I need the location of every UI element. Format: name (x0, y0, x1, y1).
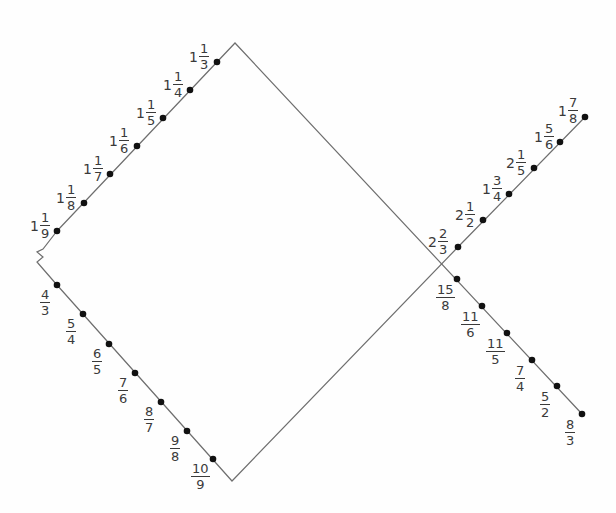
denominator: 2 (541, 405, 549, 419)
dot-point (158, 399, 165, 406)
numerator: 15 (436, 283, 455, 298)
dot-point (132, 370, 139, 377)
dot-label: 215 (506, 148, 526, 177)
whole-number: 1 (30, 219, 39, 233)
fraction: 16 (119, 126, 129, 155)
dot-label: 87 (144, 405, 154, 434)
fraction: 76 (118, 376, 128, 405)
dot-point (184, 428, 191, 435)
numerator: 7 (568, 96, 578, 111)
fraction: 158 (436, 283, 455, 312)
dot-label: 76 (118, 376, 128, 405)
dot-point (54, 282, 61, 289)
dot-label: 156 (534, 122, 554, 151)
dot-label: 65 (92, 347, 102, 376)
numerator: 9 (170, 434, 180, 449)
denominator: 2 (466, 215, 474, 229)
dot-point (529, 357, 536, 364)
fraction: 34 (492, 174, 502, 203)
fish-lower-outline (37, 117, 585, 481)
fish-outline (0, 0, 616, 513)
fraction: 78 (568, 96, 578, 125)
denominator: 6 (120, 141, 128, 155)
numerator: 8 (144, 405, 154, 420)
dot-label: 52 (540, 390, 550, 419)
dot-label: 118 (56, 183, 76, 212)
dot-point (134, 143, 141, 150)
fraction: 12 (465, 200, 475, 229)
numerator: 6 (92, 347, 102, 362)
fraction: 19 (40, 211, 50, 240)
denominator: 9 (41, 226, 49, 240)
denominator: 5 (147, 113, 155, 127)
denominator: 8 (569, 111, 577, 125)
numerator: 5 (66, 317, 76, 332)
dot-point (504, 330, 511, 337)
dot-point (506, 191, 513, 198)
numerator: 5 (540, 390, 550, 405)
fraction: 52 (540, 390, 550, 419)
numerator: 7 (118, 376, 128, 391)
dot-label: 158 (436, 283, 455, 312)
whole-number: 1 (163, 78, 172, 92)
dot-label: 83 (565, 418, 575, 447)
whole-number: 2 (455, 208, 464, 222)
denominator: 8 (441, 298, 449, 312)
numerator: 1 (465, 200, 475, 215)
dot-label: 212 (455, 200, 475, 229)
numerator: 10 (191, 462, 210, 477)
denominator: 6 (119, 391, 127, 405)
whole-number: 1 (482, 182, 491, 196)
denominator: 5 (491, 352, 499, 366)
dot-point (187, 87, 194, 94)
whole-number: 1 (83, 162, 92, 176)
dot-label: 116 (461, 310, 480, 339)
dot-label: 114 (163, 70, 183, 99)
dot-point (554, 383, 561, 390)
numerator: 1 (40, 211, 50, 226)
dot-label: 223 (428, 227, 448, 256)
numerator: 7 (515, 364, 525, 379)
dot-label: 116 (109, 126, 129, 155)
fraction: 54 (66, 317, 76, 346)
denominator: 4 (174, 85, 182, 99)
dot-to-dot-diagram: 1131141151161171181194354657687981092232… (0, 0, 616, 513)
dot-label: 113 (189, 42, 209, 71)
numerator: 1 (516, 148, 526, 163)
dot-point (455, 244, 462, 251)
dot-label: 43 (40, 288, 50, 317)
numerator: 1 (146, 98, 156, 113)
dot-label: 117 (83, 154, 103, 183)
numerator: 1 (199, 42, 209, 57)
fraction: 15 (516, 148, 526, 177)
numerator: 2 (438, 227, 448, 242)
numerator: 11 (461, 310, 480, 325)
dot-point (579, 411, 586, 418)
denominator: 3 (200, 57, 208, 71)
fraction: 98 (170, 434, 180, 463)
dot-point (107, 171, 114, 178)
numerator: 4 (40, 288, 50, 303)
dot-label: 134 (482, 174, 502, 203)
denominator: 5 (93, 362, 101, 376)
denominator: 6 (466, 325, 474, 339)
denominator: 3 (566, 433, 574, 447)
fraction: 18 (66, 183, 76, 212)
fraction: 23 (438, 227, 448, 256)
numerator: 1 (93, 154, 103, 169)
whole-number: 1 (109, 134, 118, 148)
fraction: 13 (199, 42, 209, 71)
dot-label: 54 (66, 317, 76, 346)
whole-number: 1 (189, 50, 198, 64)
numerator: 1 (66, 183, 76, 198)
whole-number: 2 (428, 235, 437, 249)
denominator: 8 (171, 449, 179, 463)
denominator: 6 (545, 137, 553, 151)
dot-point (210, 456, 217, 463)
denominator: 7 (145, 420, 153, 434)
dot-point (531, 165, 538, 172)
dot-label: 115 (136, 98, 156, 127)
denominator: 5 (517, 163, 525, 177)
numerator: 1 (173, 70, 183, 85)
denominator: 4 (67, 332, 75, 346)
